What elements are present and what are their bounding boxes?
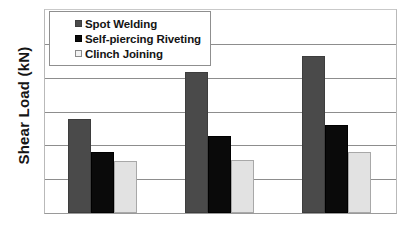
bar-self-piercing-riveting-group-2 [208,136,231,213]
bar-self-piercing-riveting-group-1 [91,152,114,213]
bar-clinch-joining-group-3 [348,152,371,213]
bar-spot-welding-group-1 [68,119,91,213]
bar-spot-welding-group-2 [185,72,208,213]
legend-label-clinch-joining: Clinch Joining [85,48,163,60]
legend-item-spot-welding[interactable]: Spot Welding [54,16,206,31]
legend-item-self-piercing-riveting[interactable]: Self-piercing Riveting [54,31,206,46]
y-axis-title: Shear Load (kN) [15,16,32,196]
chart-legend: Spot Welding Self-piercing Riveting Clin… [49,11,211,66]
legend-swatch-spot-welding-icon [75,20,82,27]
bar-self-piercing-riveting-group-3 [325,125,348,213]
bar-clinch-joining-group-1 [114,161,137,213]
bar-spot-welding-group-3 [302,56,325,213]
legend-swatch-self-piercing-riveting-icon [75,35,82,42]
y-axis-title-area: Shear Load (kN) [0,0,44,229]
legend-item-clinch-joining[interactable]: Clinch Joining [54,46,206,61]
legend-label-spot-welding: Spot Welding [85,18,157,30]
chart-figure: Shear Load (kN) Spot Welding Self-pierci… [0,0,406,229]
legend-swatch-clinch-joining-icon [75,50,82,57]
legend-label-self-piercing-riveting: Self-piercing Riveting [85,33,201,45]
bar-clinch-joining-group-2 [231,160,254,213]
